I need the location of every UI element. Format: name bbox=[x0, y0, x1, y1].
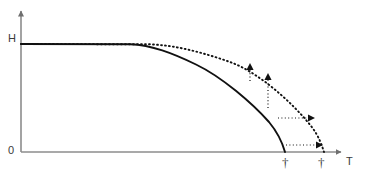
x-tick-label-2: † bbox=[318, 156, 325, 169]
y-axis-label: H bbox=[8, 33, 16, 44]
x-tick-label-1: † bbox=[282, 156, 289, 169]
plot-canvas bbox=[0, 0, 365, 176]
figure-container: H 0 T † † bbox=[0, 0, 365, 176]
solid-curve bbox=[21, 44, 285, 152]
y-axis-origin-label: 0 bbox=[8, 145, 14, 156]
x-axis-label: T bbox=[346, 156, 353, 167]
